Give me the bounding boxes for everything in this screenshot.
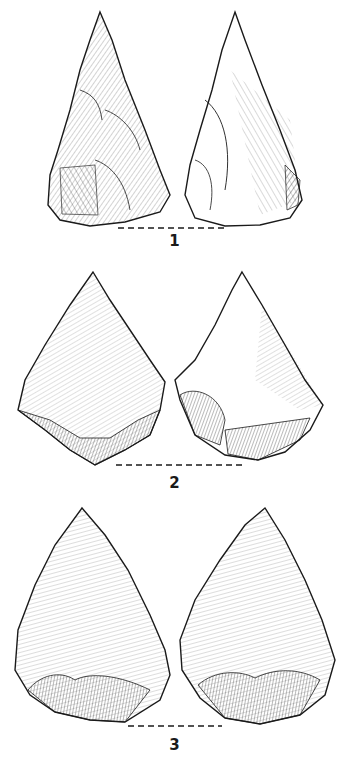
figure-label-1: 1 <box>0 232 349 250</box>
point-2-left-view <box>18 272 165 465</box>
point-2-right-view <box>175 272 323 460</box>
stone-point-1-drawing <box>0 0 349 260</box>
illustration-plate: 1 2 <box>0 0 349 763</box>
point-3-right-view <box>180 508 335 724</box>
figure-label-2: 2 <box>0 474 349 492</box>
point-1-right-view <box>185 12 302 226</box>
figure-3: 3 <box>0 500 349 763</box>
stone-point-2-drawing <box>0 260 349 500</box>
figure-2: 2 <box>0 260 349 500</box>
point-3-left-view <box>15 508 170 722</box>
figure-label-3: 3 <box>0 736 349 754</box>
figure-1: 1 <box>0 0 349 260</box>
stone-point-3-drawing <box>0 500 349 763</box>
point-1-left-view <box>48 12 170 226</box>
